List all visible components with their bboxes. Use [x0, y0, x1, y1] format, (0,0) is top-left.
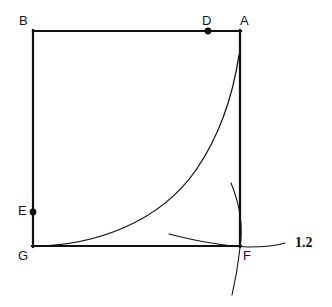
point-marker-D	[205, 28, 212, 35]
vertex-label-a: A	[240, 14, 249, 27]
measure-label: 1.2	[295, 236, 313, 250]
marked-points	[30, 28, 212, 216]
construction-arcs	[169, 183, 285, 295]
vertex-label-g: G	[18, 249, 28, 262]
vertex-label-b: B	[19, 14, 28, 27]
geometry-canvas	[0, 0, 332, 307]
point-marker-E	[30, 209, 37, 216]
exponential-curve-path	[33, 55, 239, 246]
square-outline	[32, 30, 241, 247]
geometry-figure: B D A E G F 1.2	[0, 0, 332, 307]
vertex-label-e: E	[18, 204, 27, 217]
vertex-label-f: F	[243, 249, 251, 262]
vertex-label-d: D	[202, 14, 211, 27]
